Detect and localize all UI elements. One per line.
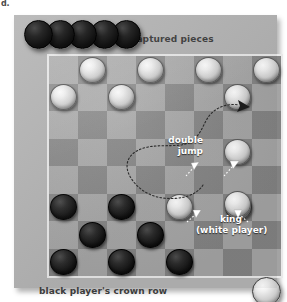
double-jump-label-line2: jump	[178, 146, 203, 156]
white-piece[interactable]	[79, 57, 106, 83]
white-piece[interactable]	[195, 57, 222, 83]
black-piece[interactable]	[50, 249, 77, 275]
piece-layer[interactable]	[49, 56, 281, 276]
white-piece[interactable]	[224, 139, 251, 165]
white-piece[interactable]	[137, 57, 164, 83]
white-piece[interactable]	[166, 194, 193, 220]
checkerboard[interactable]	[47, 54, 283, 278]
black-piece[interactable]	[137, 222, 164, 248]
offboard-white-piece[interactable]	[252, 277, 281, 302]
black-piece[interactable]	[166, 249, 193, 275]
white-piece[interactable]	[224, 84, 251, 110]
captured-pieces-label: captured pieces	[131, 34, 214, 44]
corner-text-fragment: d.	[1, 0, 9, 9]
king-label-line2: (white player)	[196, 225, 267, 235]
black-piece[interactable]	[108, 194, 135, 220]
king-label: king (white player)	[196, 214, 266, 235]
double-jump-label: double jump	[145, 135, 203, 156]
checkers-diagram: d. captured pieces black player's crown …	[0, 0, 287, 302]
black-piece[interactable]	[50, 194, 77, 220]
crown-row-label: black player's crown row	[39, 286, 167, 296]
black-piece[interactable]	[108, 249, 135, 275]
captured-black-piece[interactable]	[24, 20, 53, 49]
black-piece[interactable]	[79, 222, 106, 248]
white-piece[interactable]	[108, 84, 135, 110]
double-jump-label-line1: double	[168, 135, 203, 145]
white-piece[interactable]	[50, 84, 77, 110]
white-piece[interactable]	[253, 57, 280, 83]
king-label-line1: king	[220, 214, 242, 224]
